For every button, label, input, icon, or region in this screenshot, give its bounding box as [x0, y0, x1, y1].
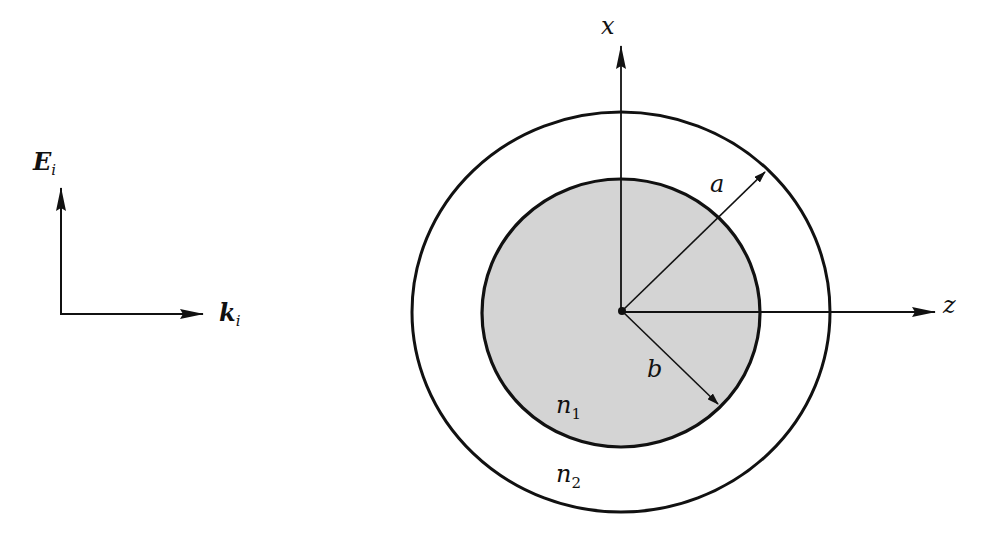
radius-b-label: b: [647, 357, 662, 381]
shell-index-label: n2: [556, 462, 581, 491]
x-axis-label: x: [601, 14, 615, 38]
e-symbol: E: [33, 147, 51, 176]
z-axis-label: z: [943, 293, 956, 317]
radius-a-label: a: [710, 172, 724, 196]
n2-symbol: n: [556, 460, 571, 488]
k-vector-label: ki: [219, 301, 240, 329]
n1-subscript: 1: [571, 405, 581, 423]
k-subscript: i: [236, 312, 241, 330]
n2-subscript: 2: [571, 474, 581, 492]
e-field-label: Ei: [33, 150, 56, 178]
diagram-canvas: [0, 0, 998, 539]
incident-wave-vectors: [60, 188, 203, 315]
core-index-label: n1: [556, 393, 581, 422]
k-symbol: k: [219, 298, 236, 327]
n1-symbol: n: [556, 391, 571, 419]
e-subscript: i: [51, 161, 56, 179]
